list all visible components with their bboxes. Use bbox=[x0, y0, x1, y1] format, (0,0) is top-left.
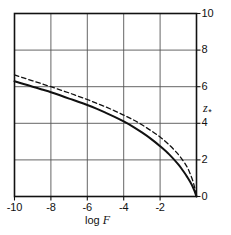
y-tick-label: 0 bbox=[202, 190, 208, 202]
data-curves bbox=[15, 75, 197, 197]
x-tick-label: -6 bbox=[73, 201, 101, 213]
x-tick-label: -8 bbox=[37, 201, 65, 213]
x-tick-label: -2 bbox=[146, 201, 174, 213]
x-axis-title-var: F bbox=[103, 213, 110, 227]
grid-lines bbox=[15, 14, 197, 197]
y-axis-title: z* bbox=[203, 101, 212, 117]
x-tick-label: -10 bbox=[1, 201, 29, 213]
y-tick-label: 6 bbox=[202, 80, 208, 92]
axes-frame bbox=[15, 14, 197, 197]
y-tick-label: 2 bbox=[202, 153, 208, 165]
figure-container: -10-8-6-4-2 0246810 log F z* bbox=[0, 0, 231, 235]
x-axis-title: log F bbox=[85, 213, 110, 228]
x-axis-title-log: log bbox=[85, 214, 100, 226]
x-tick-label: -4 bbox=[110, 201, 138, 213]
curve-dashed-curve bbox=[15, 75, 197, 197]
y-axis-title-subscript: * bbox=[208, 107, 212, 117]
y-tick-label: 4 bbox=[202, 116, 208, 128]
curve-solid-curve bbox=[15, 81, 197, 196]
y-axis-title-var: z bbox=[203, 101, 208, 115]
y-tick-label: 8 bbox=[202, 43, 208, 55]
y-tick-label: 10 bbox=[202, 7, 214, 19]
